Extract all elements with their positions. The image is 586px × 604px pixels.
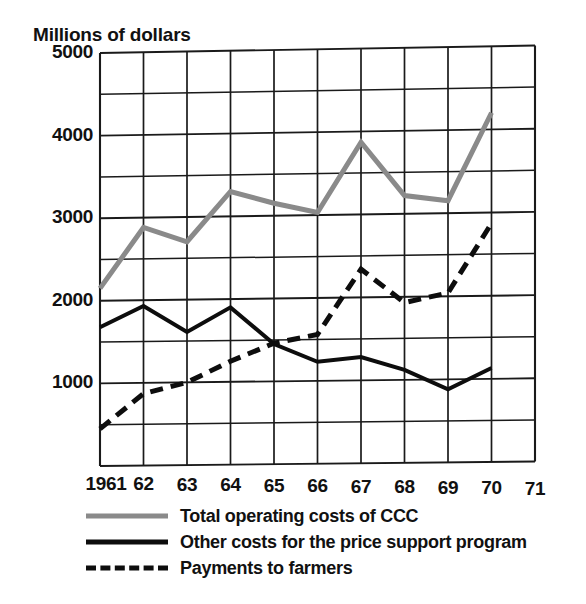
x-axis-tick-label: 71 [518,478,552,500]
gridlines [100,46,535,467]
y-axis-tick-label: 1000 [19,371,93,393]
legend-item: Other costs for the price support progra… [86,529,586,555]
legend-item-label: Total operating costs of CCC [180,506,418,527]
series-line-1 [100,113,492,289]
chart-legend: Total operating costs of CCC Other costs… [86,503,586,581]
legend-item: Total operating costs of CCC [86,503,586,529]
x-axis-tick-label: 67 [344,476,378,498]
gray-solid-line-swatch [86,509,168,523]
x-axis-tick-label: 65 [257,475,291,497]
y-axis-tick-label: 2000 [19,289,93,311]
x-axis-tick-label: 70 [475,477,509,499]
black-dashed-line-swatch [86,561,168,575]
legend-item-label: Payments to farmers [180,558,352,579]
legend-item-label: Other costs for the price support progra… [180,532,527,553]
x-axis-tick-label: 64 [214,474,248,496]
series-line-2 [100,306,492,389]
y-axis-tick-label: 4000 [19,124,93,146]
chart-figure: Millions of dollars 50004000300020001000… [0,0,586,604]
black-solid-line-swatch [86,535,168,549]
x-axis-tick-label: 62 [127,473,161,495]
y-axis-tick-label: 3000 [19,206,93,228]
x-axis-tick-label: 66 [301,475,335,497]
x-axis-tick-label: 63 [170,474,204,496]
legend-item: Payments to farmers [86,555,586,581]
line-chart: Millions of dollars 50004000300020001000… [0,0,586,604]
x-axis-tick-label: 68 [388,476,422,498]
y-axis-tick-label: 5000 [19,41,93,63]
x-axis-tick-label: 69 [431,477,465,499]
